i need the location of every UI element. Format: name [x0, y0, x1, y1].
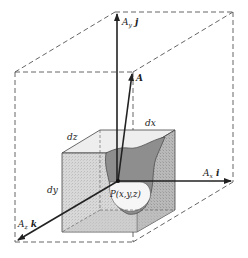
dy-label: dy [47, 185, 59, 195]
ax-i-label: Axi [202, 168, 220, 179]
a-label: A [135, 73, 143, 83]
az-k-label: Azk [17, 219, 37, 230]
diagram-canvas: Ayj A Axi Azk dx dz dy P(x,y,z) [0, 0, 248, 258]
point-p-label: P(x,y,z) [109, 189, 141, 199]
vector-component-diagram: Ayj A Axi Azk dx dz dy P(x,y,z) [0, 0, 248, 258]
dz-label: dz [67, 132, 78, 142]
dx-label: dx [145, 118, 156, 128]
point-p-dot [116, 179, 120, 183]
ay-j-label: Ayj [121, 17, 139, 29]
